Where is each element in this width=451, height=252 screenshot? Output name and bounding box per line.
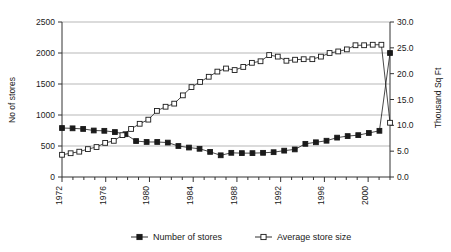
data-point-marker: [176, 144, 181, 149]
data-point-marker: [187, 145, 192, 150]
chart-container: 05001000150020002500 0.05.010.015.020.02…: [0, 0, 451, 252]
data-point-marker: [163, 104, 168, 109]
data-point-marker: [319, 54, 324, 59]
data-point-marker: [215, 69, 220, 74]
data-point-marker: [85, 147, 90, 152]
data-point-marker: [353, 43, 358, 48]
y2-tick-label: 10.0: [397, 120, 414, 130]
data-point-marker: [239, 151, 244, 156]
y-tick-label: 1000: [36, 110, 55, 120]
data-point-marker: [94, 145, 99, 150]
x-tick-label: 1976: [98, 186, 108, 205]
dual-axis-line-chart: 05001000150020002500 0.05.010.015.020.02…: [0, 0, 451, 252]
data-point-marker: [282, 148, 287, 153]
data-point-marker: [155, 108, 160, 113]
data-point-marker: [362, 43, 367, 48]
data-point-marker: [120, 133, 125, 138]
data-point-marker: [229, 150, 234, 155]
y2-axis-title: Thousand Sq Ft: [433, 67, 443, 128]
legend-filled-square-icon: [137, 234, 142, 239]
x-tick-label: 2000: [360, 186, 370, 205]
data-point-marker: [267, 53, 272, 58]
data-point-marker: [275, 54, 280, 59]
data-point-marker: [189, 85, 194, 90]
y-tick-label: 1500: [36, 79, 55, 89]
y2-tick-label: 5.0: [397, 146, 409, 156]
data-point-marker: [388, 51, 393, 56]
x-tick-label: 1988: [229, 186, 239, 205]
y-axis-title: No of stores: [7, 77, 17, 123]
data-point-marker: [344, 47, 349, 52]
data-point-marker: [284, 58, 289, 63]
chart-background: [0, 0, 451, 252]
data-point-marker: [241, 65, 246, 70]
data-point-marker: [310, 57, 315, 62]
data-point-marker: [218, 153, 223, 158]
data-point-marker: [206, 74, 211, 79]
data-point-marker: [70, 126, 75, 131]
y2-tick-label: 15.0: [397, 95, 414, 105]
x-tick-label: 1980: [141, 186, 151, 205]
data-point-marker: [345, 134, 350, 139]
data-point-marker: [165, 140, 170, 145]
x-tick-label: 1972: [54, 186, 64, 205]
data-point-marker: [303, 141, 308, 146]
legend-label: Number of stores: [153, 232, 223, 242]
data-point-marker: [103, 141, 108, 146]
data-point-marker: [146, 117, 151, 122]
data-point-marker: [335, 135, 340, 140]
data-point-marker: [388, 120, 393, 125]
data-point-marker: [111, 138, 116, 143]
data-point-marker: [134, 139, 139, 144]
data-point-marker: [258, 59, 263, 64]
data-point-marker: [68, 151, 73, 156]
data-point-marker: [144, 140, 149, 145]
data-point-marker: [249, 60, 254, 65]
x-tick-label: 1984: [185, 186, 195, 205]
y2-tick-label: 30.0: [397, 17, 414, 27]
data-point-marker: [129, 127, 134, 132]
data-point-marker: [155, 140, 160, 145]
data-point-marker: [137, 121, 142, 126]
x-tick-label: 1996: [316, 186, 326, 205]
data-point-marker: [301, 57, 306, 62]
data-point-marker: [324, 138, 329, 143]
data-point-marker: [261, 150, 266, 155]
y2-tick-label: 0.0: [397, 172, 409, 182]
data-point-marker: [232, 68, 237, 73]
data-point-marker: [292, 147, 297, 152]
data-point-marker: [102, 128, 107, 133]
data-point-marker: [197, 146, 202, 151]
legend-open-square-icon: [261, 234, 266, 239]
data-point-marker: [180, 93, 185, 98]
y2-tick-label: 25.0: [397, 43, 414, 53]
data-point-marker: [327, 51, 332, 56]
data-point-marker: [208, 149, 213, 154]
y-tick-label: 2500: [36, 17, 55, 27]
x-tick-label: 1992: [273, 186, 283, 205]
data-point-marker: [314, 140, 319, 145]
y-tick-label: 0: [50, 172, 55, 182]
data-point-marker: [250, 151, 255, 156]
data-point-marker: [198, 80, 203, 85]
data-point-marker: [224, 66, 229, 71]
data-point-marker: [379, 42, 384, 47]
data-point-marker: [91, 128, 96, 133]
legend-label: Average store size: [277, 232, 351, 242]
data-point-marker: [366, 131, 371, 136]
data-point-marker: [172, 101, 177, 106]
data-point-marker: [113, 130, 118, 135]
data-point-marker: [77, 149, 82, 154]
data-point-marker: [377, 128, 382, 133]
data-point-marker: [356, 133, 361, 138]
data-point-marker: [336, 49, 341, 54]
y-tick-label: 2000: [36, 48, 55, 58]
data-point-marker: [81, 127, 86, 132]
data-point-marker: [271, 150, 276, 155]
y2-tick-label: 20.0: [397, 69, 414, 79]
data-point-marker: [370, 42, 375, 47]
data-point-marker: [293, 57, 298, 62]
data-point-marker: [60, 152, 65, 157]
data-point-marker: [60, 126, 65, 131]
y-tick-label: 500: [41, 141, 55, 151]
